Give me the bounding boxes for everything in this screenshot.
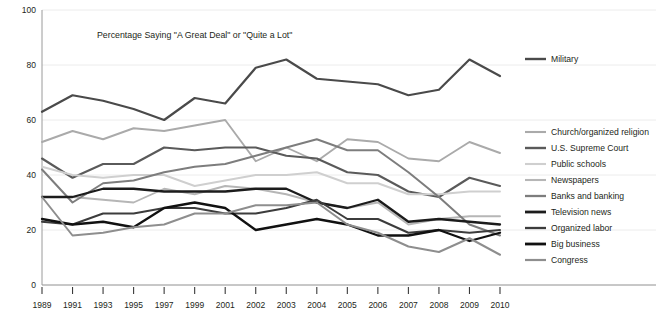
chart-title: Percentage Saying "A Great Deal" or "Qui… [97,30,292,40]
x-axis-tick-label: 1997 [155,300,174,310]
legend-label-banks-and-banking[interactable]: Banks and banking [551,191,624,201]
x-axis-tick-label: 2003 [277,300,296,310]
legend-label-u-s-supreme-court[interactable]: U.S. Supreme Court [551,143,629,153]
x-axis-tick-label: 2004 [307,300,326,310]
legend-label-military[interactable]: Military [551,54,579,64]
chart-canvas: 020406080100 198919911993199519971999200… [0,0,656,331]
y-axis-tick-label: 100 [22,5,36,15]
x-axis-tick-label: 2009 [460,300,479,310]
legend-label-congress[interactable]: Congress [551,255,588,265]
y-axis-tick-label: 40 [27,170,37,180]
x-axis-tick-label: 1989 [33,300,52,310]
line-chart-confidence-in-institutions: 020406080100 198919911993199519971999200… [0,0,656,331]
x-axis-tick-label: 2008 [429,300,448,310]
legend-label-television-news[interactable]: Television news [551,207,611,217]
x-axis-tick-label: 2007 [399,300,418,310]
x-axis-tick-label: 2001 [216,300,235,310]
legend-label-public-schools[interactable]: Public schools [551,159,606,169]
x-axis-tick-label: 2010 [491,300,510,310]
legend-label-big-business[interactable]: Big business [551,239,600,249]
x-axis-tick-label: 2002 [246,300,265,310]
legend-label-organized-labor[interactable]: Organized labor [551,223,612,233]
y-axis-tick-label: 0 [31,280,36,290]
x-axis-tick-label: 1991 [63,300,82,310]
y-axis-tick-label: 20 [27,225,37,235]
x-axis-tick-label: 1995 [124,300,143,310]
x-axis-tick-label: 2005 [338,300,357,310]
y-axis-tick-label: 80 [27,60,37,70]
legend-label-newspapers[interactable]: Newspapers [551,175,599,185]
x-axis-tick-label: 1999 [185,300,204,310]
legend-label-church-organized-religion[interactable]: Church/organized religion [551,127,649,137]
x-axis-tick-label: 2006 [368,300,387,310]
y-axis-tick-label: 60 [27,115,37,125]
x-axis-tick-label: 1993 [94,300,113,310]
